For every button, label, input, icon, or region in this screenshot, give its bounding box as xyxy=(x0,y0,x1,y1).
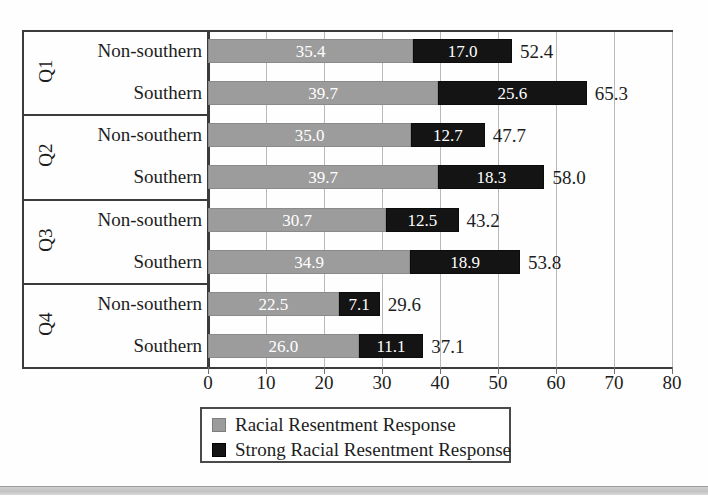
legend-swatch-light-icon xyxy=(212,418,226,432)
bar-total-label: 65.3 xyxy=(595,81,628,105)
bar-total-label: 47.7 xyxy=(493,123,526,147)
bar-value-light: 34.9 xyxy=(208,250,410,274)
group-label-q1: Q1 xyxy=(35,49,57,93)
bar-value-light: 26.0 xyxy=(208,334,359,358)
bar-value-dark: 18.9 xyxy=(410,250,520,274)
bar-total-label: 43.2 xyxy=(467,208,500,232)
stacked-bar-chart: Q1Q2Q3Q4 Non-southernSouthernNon-souther… xyxy=(0,0,708,496)
bar-value-dark: 25.6 xyxy=(438,81,586,105)
x-tick-label-20: 20 xyxy=(304,372,344,394)
bar-value-light: 39.7 xyxy=(208,81,438,105)
bar-value-light: 35.4 xyxy=(208,39,413,63)
bar-value-light: 39.7 xyxy=(208,165,438,189)
group-separator-Q3 xyxy=(22,199,208,201)
legend-label: Racial Resentment Response xyxy=(235,414,456,436)
x-tick-label-60: 60 xyxy=(536,372,576,394)
x-tick-label-50: 50 xyxy=(478,372,518,394)
chart-page: Q1Q2Q3Q4 Non-southernSouthernNon-souther… xyxy=(0,0,708,496)
gridline-80 xyxy=(672,30,673,368)
bar-total-label: 53.8 xyxy=(528,250,561,274)
row-label: Non-southern xyxy=(60,209,202,231)
legend-label: Strong Racial Resentment Response xyxy=(235,439,511,461)
x-tick-label-80: 80 xyxy=(652,372,692,394)
group-separator-Q4 xyxy=(22,283,208,285)
bar-value-light: 35.0 xyxy=(208,123,411,147)
bar-total-label: 29.6 xyxy=(388,292,421,316)
row-label: Southern xyxy=(60,251,202,273)
legend-item-racial-resentment: Racial Resentment Response xyxy=(212,412,509,437)
chart-frame-top xyxy=(22,30,673,32)
chart-frame-bottom xyxy=(22,367,673,369)
x-tick-label-70: 70 xyxy=(594,372,634,394)
bar-total-label: 52.4 xyxy=(520,39,553,63)
row-label: Southern xyxy=(60,82,202,104)
x-tick-label-40: 40 xyxy=(420,372,460,394)
page-scan-band xyxy=(0,487,708,495)
bar-total-label: 58.0 xyxy=(552,165,585,189)
bar-value-light: 22.5 xyxy=(208,292,339,316)
bar-value-dark: 12.5 xyxy=(386,208,459,232)
bar-value-dark: 11.1 xyxy=(359,334,423,358)
legend-swatch-dark-icon xyxy=(212,443,226,457)
row-label: Southern xyxy=(60,166,202,188)
row-label: Non-southern xyxy=(60,124,202,146)
group-separator-Q2 xyxy=(22,114,208,116)
x-tick-label-30: 30 xyxy=(362,372,402,394)
x-tick-label-0: 0 xyxy=(188,372,228,394)
bar-value-dark: 18.3 xyxy=(438,165,544,189)
chart-legend: Racial Resentment Response Strong Racial… xyxy=(200,407,511,463)
bar-value-dark: 17.0 xyxy=(413,39,512,63)
legend-item-strong-racial-resentment: Strong Racial Resentment Response xyxy=(212,437,509,462)
bar-value-dark: 7.1 xyxy=(339,292,380,316)
bar-total-label: 37.1 xyxy=(431,334,464,358)
row-label: Non-southern xyxy=(60,293,202,315)
group-label-q4: Q4 xyxy=(35,302,57,346)
row-label: Non-southern xyxy=(60,40,202,62)
x-tick-label-10: 10 xyxy=(246,372,286,394)
row-label: Southern xyxy=(60,335,202,357)
bar-value-light: 30.7 xyxy=(208,208,386,232)
bar-value-dark: 12.7 xyxy=(411,123,485,147)
group-label-q3: Q3 xyxy=(35,218,57,262)
group-label-q2: Q2 xyxy=(35,133,57,177)
